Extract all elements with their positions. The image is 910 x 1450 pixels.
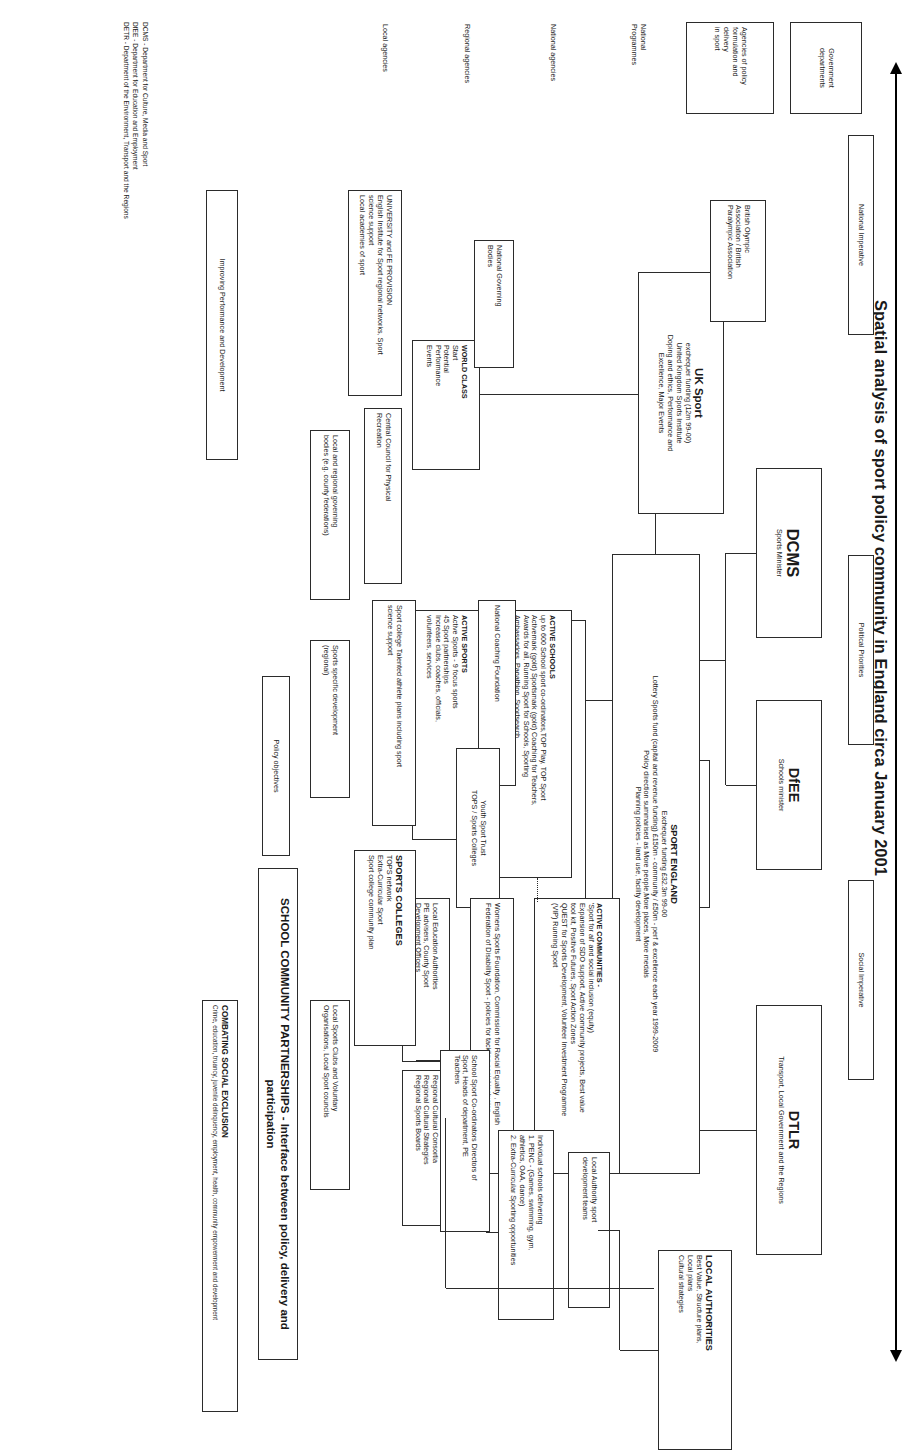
connector-dcms-down bbox=[726, 553, 756, 554]
box-local-regional-governing-bodies: Local and regional governing bodies (e.g… bbox=[310, 430, 350, 600]
box-local-sports-clubs: Local Sports Clubs and Voluntary Organis… bbox=[310, 1000, 350, 1190]
connector-se-down bbox=[586, 700, 612, 701]
row-label-national-agencies: National agencies bbox=[549, 24, 558, 124]
connector-ukspot-se-h bbox=[655, 514, 656, 554]
connector-dtlr-down bbox=[696, 1130, 756, 1131]
national-local-axis bbox=[883, 62, 909, 1362]
box-school-sport-coordinators: School Sport Co-ordinators Directors of … bbox=[440, 1050, 490, 1232]
box-sports-specific-development: Sports specific development (regional) bbox=[310, 640, 350, 798]
row-label-government-departments: Government departments bbox=[790, 22, 862, 114]
connector-dfee-down bbox=[726, 785, 756, 786]
driver-social-imperative: Social Imperative bbox=[848, 880, 874, 1080]
row-label-regional-agencies: Regional agencies bbox=[463, 24, 472, 124]
box-combating-social-exclusion: COMBATING SOCIAL EXCLUSION Crime, educat… bbox=[202, 1000, 238, 1412]
connector-dtlr-local-auth bbox=[446, 1288, 654, 1289]
connector-schools-chain-1 bbox=[486, 1232, 498, 1233]
connector-se-to-as bbox=[572, 620, 586, 621]
connector-ws-worldclass bbox=[480, 394, 638, 395]
box-british-olympic-association: British Olympic Association / British Pa… bbox=[710, 200, 766, 322]
box-national-governing-bodies: National Governing Bodies bbox=[474, 240, 514, 368]
row-label-agencies-of-policy: Agencies of policy formulation and deliv… bbox=[686, 22, 774, 114]
box-sport-college-athlete-plans: Sport college Talented athlete plans inc… bbox=[372, 600, 416, 826]
driver-national-imperative: National Imperative bbox=[848, 135, 874, 335]
connector-dcms-dfee bbox=[725, 553, 726, 785]
box-school-community-partnerships: SCHOOL COMMUNITY PARTNERSHIPS - Interfac… bbox=[258, 868, 298, 1360]
driver-political-priorities: Political Priorities bbox=[848, 555, 874, 745]
connector-dcms-to-se bbox=[698, 660, 726, 661]
connector-la-h bbox=[619, 1230, 620, 1350]
connector-schools-chain-2 bbox=[416, 1060, 440, 1061]
department-dcms: DCMS Sports Minister bbox=[756, 468, 822, 638]
axis-arrow-right bbox=[890, 1350, 902, 1362]
legend: DCMS - Department for Culture, Media and… bbox=[121, 22, 150, 422]
box-policy-objectives: Policy objectives bbox=[262, 676, 290, 856]
row-label-local-agencies: Local agencies bbox=[381, 24, 390, 124]
department-dtlr: DTLR Transport, Local Government and the… bbox=[756, 1005, 822, 1255]
box-sport-england: SPORT ENGLAND Exchequer funding £32.3m 9… bbox=[612, 554, 700, 1174]
box-university-fe-provision: UNIVERSITY and FE PROVISION English Inst… bbox=[348, 190, 402, 396]
box-world-class: WORLD CLASS Start Potential Performance … bbox=[412, 340, 480, 470]
box-local-authorities: LOCAL AUTHORITIES Best Value, Structure … bbox=[658, 1250, 732, 1450]
box-youth-sport-trust: Youth Sport Trust TOPS / Sports Colleges bbox=[456, 748, 500, 908]
box-ccpr: Central Council for Physical Recreation bbox=[364, 408, 402, 584]
connector-la-down bbox=[620, 1350, 658, 1351]
department-dfee: DfEE Schools minister bbox=[756, 700, 822, 870]
dotted-active-schools-link bbox=[537, 878, 538, 902]
box-improving-performance: Improving Performance and Development bbox=[206, 190, 238, 460]
connector-local-auth-bottom bbox=[445, 1118, 446, 1288]
box-individual-schools: Individual schools delivering 1. PENC - … bbox=[498, 1130, 554, 1320]
box-sports-colleges: SPORTS COLLEGES TOPS network Extra-Curri… bbox=[354, 850, 416, 1046]
row-label-national-programmes: National Programmes bbox=[629, 24, 648, 116]
connector-la-to-individual bbox=[598, 1230, 620, 1231]
axis-shaft bbox=[895, 72, 897, 1352]
